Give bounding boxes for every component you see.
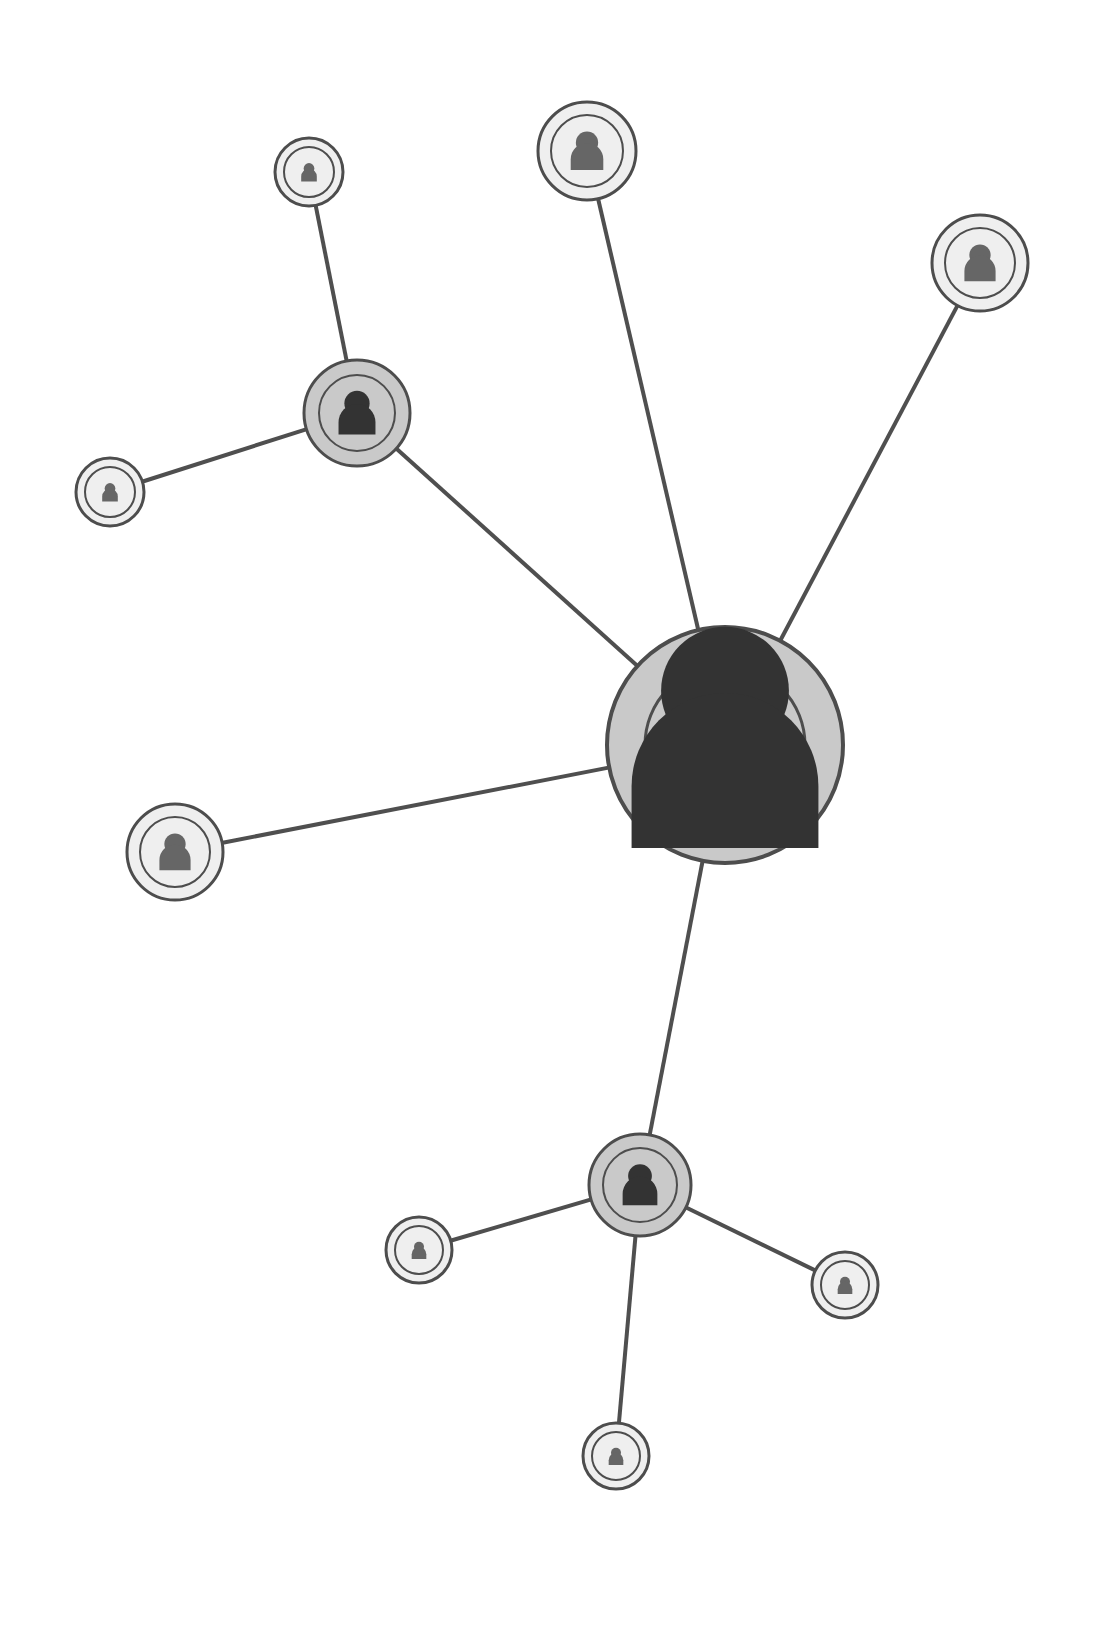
nodes-layer: Central UserUpper Left Group LeaderLower… — [76, 102, 1028, 1489]
graph-edge — [140, 429, 308, 483]
graph-edge — [395, 447, 639, 667]
graph-edge — [315, 203, 347, 363]
edge-bottom-hub-to-small-bottom-right-node — [684, 1206, 817, 1271]
network-diagram-canvas: Central UserUpper Left Group LeaderLower… — [0, 0, 1119, 1627]
edge-center-hub-to-upper-left-hub — [395, 447, 639, 667]
edges-layer — [140, 197, 958, 1425]
node-small-far-left-node[interactable]: Far Left Small Contact — [76, 458, 144, 526]
graph-edge — [598, 197, 699, 632]
graph-edge — [220, 767, 611, 843]
network-graph: Central UserUpper Left Group LeaderLower… — [0, 0, 1119, 1627]
graph-edge — [449, 1199, 593, 1241]
node-center-hub[interactable]: Central User — [607, 627, 843, 863]
edge-center-hub-to-top-center-node — [598, 197, 699, 632]
edge-upper-left-hub-to-small-top-left-node — [315, 203, 347, 363]
graph-edge — [684, 1206, 817, 1271]
edge-center-hub-to-left-mid-node — [220, 767, 611, 843]
edge-center-hub-to-bottom-hub — [649, 859, 703, 1137]
node-small-bottom-left-node[interactable]: Lower Left Small Contact — [386, 1217, 452, 1283]
node-upper-left-hub[interactable]: Upper Left Group Leader — [304, 360, 410, 466]
edge-center-hub-to-top-right-node — [779, 304, 958, 643]
graph-edge — [649, 859, 703, 1137]
graph-edge — [619, 1234, 636, 1425]
node-top-center-node[interactable]: Top Center Contact — [538, 102, 636, 200]
node-small-bottom-node[interactable]: Bottom Small Contact — [583, 1423, 649, 1489]
node-small-bottom-right-node[interactable]: Lower Right Small Contact — [812, 1252, 878, 1318]
edge-bottom-hub-to-small-bottom-left-node — [449, 1199, 593, 1241]
node-small-top-left-node[interactable]: Upper Left Small Contact — [275, 138, 343, 206]
edge-upper-left-hub-to-small-far-left-node — [140, 429, 308, 483]
node-bottom-hub[interactable]: Lower Group Leader — [589, 1134, 691, 1236]
edge-bottom-hub-to-small-bottom-node — [619, 1234, 636, 1425]
node-left-mid-node[interactable]: Left Middle Contact — [127, 804, 223, 900]
graph-edge — [779, 304, 958, 643]
node-top-right-node[interactable]: Top Right Contact — [932, 215, 1028, 311]
